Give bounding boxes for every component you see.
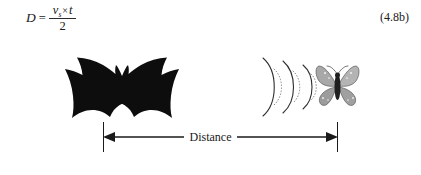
double-headed-arrow-icon — [103, 120, 338, 154]
equation-row: D = vs×t 2 (4.8b) — [0, 4, 421, 38]
multiplication-sign: × — [62, 6, 68, 16]
equation-expression: D = vs×t 2 — [26, 4, 76, 32]
distance-measure: Distance — [0, 120, 421, 160]
echolocation-figure: D = vs×t 2 (4.8b) — [0, 0, 421, 175]
moth-icon — [312, 62, 364, 110]
equals-sign: = — [39, 11, 46, 26]
fraction: vs×t 2 — [49, 4, 77, 32]
fraction-numerator: vs×t — [49, 4, 77, 18]
equation-number: (4.8b) — [380, 10, 409, 25]
numerator-variable-t: t — [69, 4, 72, 17]
fraction-denominator: 2 — [55, 19, 69, 33]
bat-silhouette-icon — [60, 56, 184, 122]
numerator-subscript-s: s — [58, 11, 61, 19]
equation-left-side: D — [26, 10, 36, 26]
illustration — [0, 48, 421, 126]
